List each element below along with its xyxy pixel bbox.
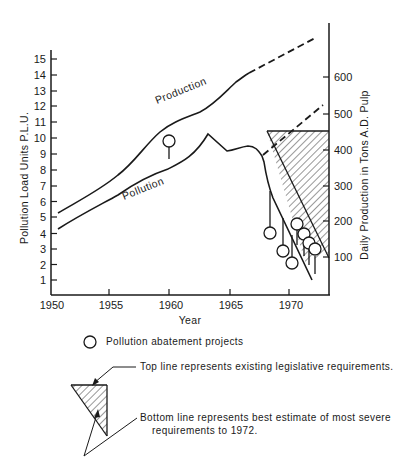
x-axis-title: Year [179,314,202,326]
svg-text:500: 500 [334,108,352,120]
svg-text:10: 10 [34,132,46,144]
legend: Pollution abatement projects Top line re… [71,336,393,456]
y-left-tick-labels: 1 2 3 4 5 6 7 8 9 10 11 12 13 14 15 [34,53,46,286]
svg-text:15: 15 [34,53,46,65]
svg-text:4: 4 [40,228,46,240]
svg-text:14: 14 [34,69,46,81]
abatement-marker [286,257,298,269]
legend-abatement: Pollution abatement projects [106,336,243,347]
requirements-band [267,131,329,262]
legend-bottom-line-2: requirements to 1972. [152,425,258,436]
y-left-axis-title: Pollution Load Units P.L.U. [18,112,30,244]
svg-text:1960: 1960 [159,299,183,311]
abatement-marker [277,245,289,257]
svg-text:11: 11 [35,116,46,128]
svg-text:400: 400 [334,144,352,156]
svg-text:600: 600 [334,71,352,83]
svg-text:200: 200 [334,215,352,227]
svg-text:9: 9 [40,148,46,160]
svg-text:2: 2 [40,259,46,271]
svg-text:12: 12 [34,100,46,112]
svg-text:13: 13 [34,85,46,97]
chart-canvas: 1 2 3 4 5 6 7 8 9 10 11 12 13 14 15 100 … [0,0,406,472]
x-tick-labels: 1950 1955 1960 1965 1970 [40,299,303,311]
y-right-axis-title: Daily Production in Tons A.D. Pulp [358,90,370,259]
abatement-legend-icon [84,336,96,348]
abatement-marker [163,135,175,147]
svg-text:1970: 1970 [279,299,303,311]
y-left-ticks [51,59,57,280]
production-series: Production [58,37,317,213]
svg-text:8: 8 [40,164,46,176]
svg-text:1955: 1955 [99,299,123,311]
production-label: Production [153,74,208,105]
svg-text:3: 3 [40,243,46,255]
svg-text:6: 6 [40,196,46,208]
abatement-marker [264,227,276,239]
legend-bottom-line-1: Bottom line represents best estimate of … [140,412,391,423]
svg-text:1: 1 [40,274,46,286]
svg-text:100: 100 [334,251,352,263]
svg-text:5: 5 [40,211,46,223]
abatement-marker [309,243,321,255]
svg-text:7: 7 [40,180,46,192]
svg-text:300: 300 [334,180,352,192]
legend-top-line: Top line represents existing legislative… [140,361,393,372]
pollution-label: Pollution [120,174,165,202]
svg-text:1965: 1965 [219,299,243,311]
x-ticks [109,289,289,295]
y-right-tick-labels: 100 200 300 400 500 600 [334,71,352,263]
svg-text:1950: 1950 [40,299,64,311]
